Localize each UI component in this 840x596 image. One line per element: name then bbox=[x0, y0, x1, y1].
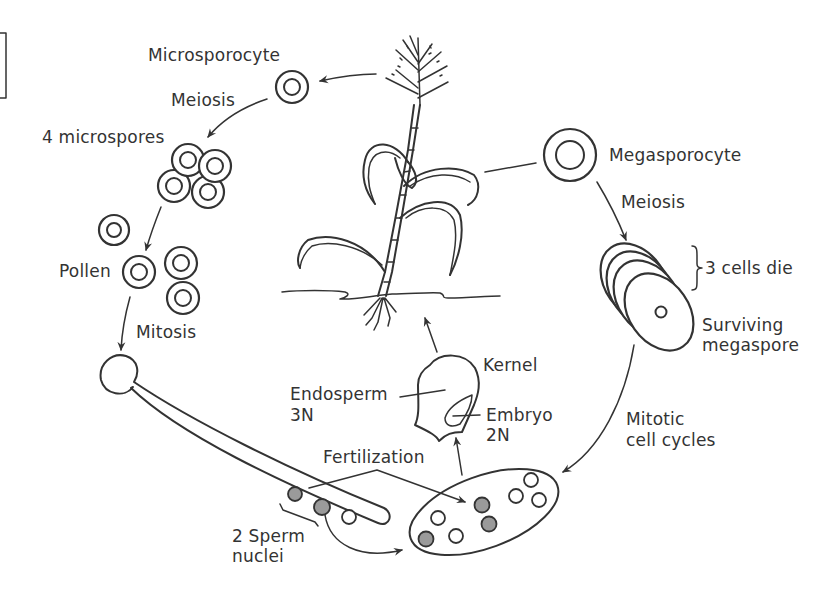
label-mitosis: Mitosis bbox=[136, 322, 196, 342]
kernel-icon bbox=[400, 356, 480, 441]
label-embryo-1: Embryo bbox=[486, 405, 553, 425]
label-megasporocyte: Megasporocyte bbox=[609, 145, 742, 165]
label-meiosis-left: Meiosis bbox=[171, 90, 235, 110]
label-pollen: Pollen bbox=[59, 261, 111, 281]
label-four-microspores: 4 microspores bbox=[42, 127, 164, 147]
label-kernel: Kernel bbox=[483, 355, 538, 375]
label-surviving-megaspore-1: Surviving bbox=[702, 315, 784, 335]
microsporocyte-cell bbox=[276, 71, 308, 103]
label-mitotic-1: Mitotic bbox=[626, 409, 685, 429]
megaspore-stack bbox=[586, 230, 707, 363]
label-fertilization: Fertilization bbox=[323, 447, 425, 467]
label-endosperm-2: 3N bbox=[290, 405, 314, 425]
four-microspores-cells bbox=[158, 144, 231, 208]
label-meiosis-right: Meiosis bbox=[621, 192, 685, 212]
megasporocyte-cell bbox=[544, 129, 596, 181]
label-embryo-2: 2N bbox=[486, 425, 510, 445]
label-sperm-nuclei-2: nuclei bbox=[232, 546, 284, 566]
label-surviving-megaspore-2: megaspore bbox=[702, 335, 799, 355]
diagram-graphics bbox=[0, 0, 840, 596]
pollen-tube bbox=[101, 355, 390, 526]
pollen-grains bbox=[99, 215, 199, 314]
label-microsporocyte: Microsporocyte bbox=[148, 45, 280, 65]
label-three-cells-die: 3 cells die bbox=[705, 258, 793, 278]
label-mitotic-2: cell cycles bbox=[626, 430, 716, 450]
label-endosperm-1: Endosperm bbox=[290, 384, 388, 404]
maize-plant-icon bbox=[282, 36, 500, 330]
embryo-sac bbox=[398, 451, 569, 572]
label-sperm-nuclei-1: 2 Sperm bbox=[232, 526, 305, 546]
maize-life-cycle-diagram: Microsporocyte Meiosis 4 microspores Pol… bbox=[0, 0, 840, 596]
cropped-frame bbox=[0, 33, 6, 98]
